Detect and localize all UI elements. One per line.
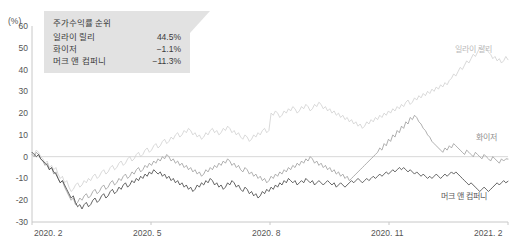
callout-row: 일라이 릴리 44.5% xyxy=(53,31,181,43)
series-label-pfizer: 화이저 xyxy=(476,131,497,142)
x-tick-label: 2020. 11 xyxy=(371,228,403,238)
callout-value-lilly: 44.5% xyxy=(157,31,181,43)
callout-name-pfizer: 화이저 xyxy=(53,43,77,55)
y-tick-label: 60 xyxy=(2,21,28,31)
stock-return-chart: (%) 6050403020100-10-20-30 2020. 22020. … xyxy=(0,0,524,247)
callout-value-pfizer: −1.1% xyxy=(157,43,181,55)
ranking-callout: 주가수익률 순위 일라이 릴리 44.5% 화이저 −1.1% 머크 앤 컴퍼니… xyxy=(44,11,190,73)
series-label-lilly: 일라이 릴리 xyxy=(455,43,492,54)
y-tick-label: 10 xyxy=(2,130,28,140)
x-tick-label: 2020. 5 xyxy=(133,228,161,238)
x-tick-label: 2020. 2 xyxy=(34,228,62,238)
callout-title: 주가수익률 순위 xyxy=(53,16,181,28)
callout-name-lilly: 일라이 릴리 xyxy=(53,31,95,43)
y-tick-label: 50 xyxy=(2,43,28,53)
x-tick-label: 2021. 2 xyxy=(474,228,502,238)
callout-value-merck: −11.3% xyxy=(153,55,181,67)
callout-row: 머크 앤 컴퍼니 −11.3% xyxy=(53,55,181,67)
y-tick-label: -30 xyxy=(2,217,28,227)
y-tick-label: 40 xyxy=(2,65,28,75)
y-tick-label: 0 xyxy=(2,152,28,162)
callout-tail xyxy=(190,11,210,33)
callout-row: 화이저 −1.1% xyxy=(53,43,181,55)
series-label-merck: 머크 앤 컴퍼니 xyxy=(441,190,487,201)
y-tick-label: 20 xyxy=(2,108,28,118)
y-tick-label: 30 xyxy=(2,86,28,96)
callout-name-merck: 머크 앤 컴퍼니 xyxy=(53,55,106,67)
y-tick-label: -20 xyxy=(2,195,28,205)
x-tick-label: 2020. 8 xyxy=(252,228,280,238)
y-tick-label: -10 xyxy=(2,173,28,183)
